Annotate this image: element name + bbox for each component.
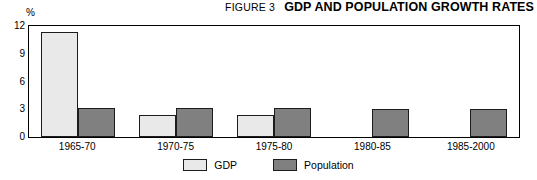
legend-item: GDP [183, 159, 237, 171]
bar-population [176, 108, 213, 137]
figure-header: FIGURE 3 GDP AND POPULATION GROWTH RATES [0, 1, 537, 17]
bar-gdp [237, 115, 274, 137]
y-axis-tick-12: 12 [14, 21, 25, 31]
bar-group [127, 26, 225, 137]
y-axis-tick-6: 6 [19, 77, 25, 87]
bar-group [323, 26, 421, 137]
y-axis-unit-label: % [26, 7, 35, 18]
x-axis-labels: 1965-701970-751975-801980-851985-2000 [28, 141, 520, 153]
figure-number: FIGURE 3 [225, 1, 275, 14]
x-axis-tick-label: 1975-80 [225, 141, 323, 153]
x-axis-tick-label: 1970-75 [126, 141, 224, 153]
chart-legend: GDPPopulation [0, 159, 537, 171]
bar-group [29, 26, 127, 137]
x-axis-tick-label: 1980-85 [323, 141, 421, 153]
y-axis-tick-9: 9 [19, 49, 25, 59]
legend-label: Population [304, 159, 354, 171]
x-axis-tick-label: 1965-70 [28, 141, 126, 153]
bar-gdp [139, 115, 176, 137]
bar-population [470, 109, 507, 137]
bar-population [78, 108, 115, 137]
legend-swatch-gdp [183, 159, 207, 171]
bar-group [421, 26, 519, 137]
legend-swatch-population [273, 159, 297, 171]
figure-title: GDP AND POPULATION GROWTH RATES [284, 1, 534, 14]
plot-inner: 036912 [29, 26, 519, 137]
figure-container: FIGURE 3 GDP AND POPULATION GROWTH RATES… [0, 0, 537, 180]
legend-item: Population [273, 159, 354, 171]
legend-label: GDP [214, 159, 237, 171]
y-axis-tick-3: 3 [19, 104, 25, 114]
bar-gdp [41, 32, 78, 137]
bar-groups [29, 26, 519, 137]
bar-group [225, 26, 323, 137]
bar-population [372, 109, 409, 137]
y-axis-tick-0: 0 [19, 132, 25, 142]
plot-area: 036912 [28, 25, 520, 138]
x-axis-tick-label: 1985-2000 [422, 141, 520, 153]
bar-population [274, 108, 311, 137]
